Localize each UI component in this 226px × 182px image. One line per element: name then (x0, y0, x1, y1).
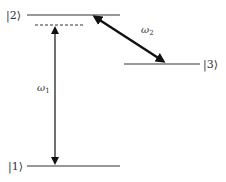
level-3-label: |3⟩ (203, 58, 218, 72)
level-2-label: |2⟩ (6, 9, 21, 23)
omega-2-label: ω2 (141, 24, 154, 37)
energy-level-diagram: |2⟩ |3⟩ |1⟩ ω1 ω2 (0, 0, 226, 182)
omega-2-arrow (95, 17, 163, 61)
level-1-label: |1⟩ (8, 160, 23, 174)
omega-1-label: ω1 (37, 82, 50, 95)
